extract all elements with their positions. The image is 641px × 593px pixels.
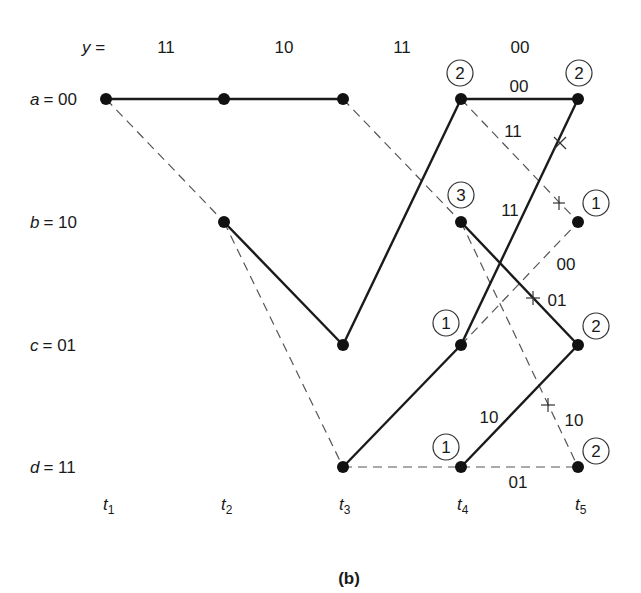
metric-t5-b: 1 xyxy=(583,190,609,216)
trellis-diagram: y = 11 10 11 00 a= 00 b= 10 c= 01 d= 11 xyxy=(0,0,641,593)
node-t3-d xyxy=(337,461,349,473)
dashed-branches xyxy=(106,99,578,467)
node-t3-a xyxy=(337,93,349,105)
metric-t4-a: 2 xyxy=(447,60,473,86)
time-label-t5: t5 xyxy=(575,495,587,517)
svg-text:1: 1 xyxy=(441,438,450,457)
state-label-c: c= 01 xyxy=(30,336,76,355)
figure-caption: (b) xyxy=(338,569,360,588)
branch-label-d-c: 10 xyxy=(480,408,499,427)
state-label-a: a= 00 xyxy=(30,90,77,109)
branch-t1-a-b xyxy=(106,99,224,222)
node-t5-c xyxy=(572,339,584,351)
branch-t2-b-d xyxy=(224,222,343,467)
received-symbol-1: 11 xyxy=(157,38,175,57)
svg-text:2: 2 xyxy=(455,64,464,83)
metric-t4-c: 1 xyxy=(433,310,459,336)
solid-branches xyxy=(106,99,578,467)
metric-t4-d: 1 xyxy=(433,434,459,460)
branch-label-c-a: 11 xyxy=(501,201,519,220)
node-t4-c xyxy=(455,339,467,351)
node-t2-a xyxy=(218,93,230,105)
branch-t3-c-a xyxy=(343,99,461,345)
svg-text:3: 3 xyxy=(456,186,465,205)
time-labels: t1 t2 t3 t4 t5 xyxy=(103,495,587,517)
time-label-t1: t1 xyxy=(103,495,115,517)
svg-text:2: 2 xyxy=(574,64,583,83)
branch-t3-a-b xyxy=(343,99,461,222)
cross-icon xyxy=(541,398,555,412)
node-t5-d xyxy=(572,461,584,473)
branch-label-d-d: 01 xyxy=(509,473,528,492)
node-t5-a xyxy=(572,93,584,105)
received-symbol-3: 11 xyxy=(393,38,411,57)
metric-t4-b: 3 xyxy=(448,182,474,208)
node-t4-a xyxy=(455,93,467,105)
node-t5-b xyxy=(572,216,584,228)
metric-t5-d: 2 xyxy=(583,438,609,464)
node-t2-b xyxy=(218,216,230,228)
received-sequence-header: y = 11 10 11 00 xyxy=(81,38,529,57)
discard-marks xyxy=(526,137,566,412)
time-label-t2: t2 xyxy=(221,495,233,517)
svg-text:1: 1 xyxy=(441,314,450,333)
received-label: y = xyxy=(81,38,105,57)
svg-text:2: 2 xyxy=(591,317,600,336)
node-t4-d xyxy=(455,461,467,473)
state-label-b: b= 10 xyxy=(30,213,77,232)
branch-label-a-a: 00 xyxy=(510,77,529,96)
node-t1-a xyxy=(100,93,112,105)
time-label-t4: t4 xyxy=(457,495,469,517)
state-labels: a= 00 b= 10 c= 01 d= 11 xyxy=(30,90,77,477)
svg-text:1: 1 xyxy=(591,194,600,213)
node-t4-b xyxy=(455,216,467,228)
branch-t4-b-c xyxy=(461,222,578,345)
branch-t4-d-c xyxy=(461,345,578,467)
svg-text:2: 2 xyxy=(591,442,600,461)
metric-t5-a: 2 xyxy=(566,60,592,86)
metric-t5-c: 2 xyxy=(583,313,609,339)
branch-label-b-c: 01 xyxy=(548,291,567,310)
branch-label-a-b: 11 xyxy=(504,122,522,141)
branch-label-b-d: 10 xyxy=(565,411,584,430)
time-label-t3: t3 xyxy=(339,495,351,517)
received-symbol-2: 10 xyxy=(275,38,294,57)
node-t3-c xyxy=(337,339,349,351)
branch-label-c-b: 00 xyxy=(557,255,576,274)
state-label-d: d= 11 xyxy=(30,458,76,477)
received-symbol-4: 00 xyxy=(511,38,530,57)
branch-t2-b-c xyxy=(224,222,343,345)
